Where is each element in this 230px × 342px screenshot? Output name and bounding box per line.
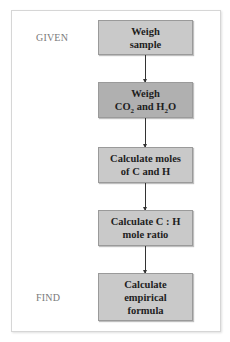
- given-label: GIVEN: [36, 32, 68, 43]
- step-weigh-sample: Weigh sample: [98, 20, 193, 55]
- arrow-down-icon: [145, 183, 146, 210]
- step-text: formula: [124, 304, 167, 317]
- step-calculate-moles: Calculate moles of C and H: [98, 147, 193, 183]
- step-weigh-co2-h2o: Weigh CO2 and H2O: [98, 82, 193, 118]
- step-calculate-empirical-formula: Calculate empirical formula: [98, 273, 193, 321]
- step-text: Weigh: [115, 87, 176, 100]
- step-text: sample: [130, 38, 162, 51]
- find-label: FIND: [36, 292, 60, 303]
- arrow-down-icon: [145, 55, 146, 82]
- step-text: Calculate C : H: [111, 215, 181, 228]
- step-calculate-ratio: Calculate C : H mole ratio: [98, 210, 193, 246]
- step-text: empirical: [124, 291, 167, 304]
- step-text: Weigh: [130, 25, 162, 38]
- arrow-down-icon: [145, 246, 146, 273]
- step-text: CO2 and H2O: [115, 100, 176, 113]
- step-text: mole ratio: [111, 228, 181, 241]
- arrow-down-icon: [145, 118, 146, 147]
- step-text: of C and H: [110, 165, 181, 178]
- step-text: Calculate: [124, 278, 167, 291]
- step-text: Calculate moles: [110, 152, 181, 165]
